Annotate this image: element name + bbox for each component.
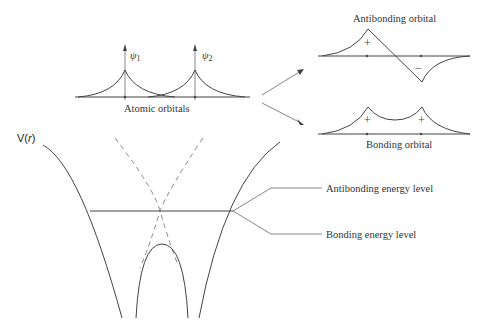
arrow-head-down-icon <box>297 119 304 125</box>
nucleus-1-dot <box>124 96 126 98</box>
right-outer-well <box>199 142 280 318</box>
left-outer-well <box>43 145 122 318</box>
bonding-plus-right: + <box>418 113 425 127</box>
arrow-to-bonding <box>262 103 301 123</box>
bonding-orbital-panel: + + Bonding orbital <box>318 107 470 150</box>
molecular-orbital-diagram: ψ1 ψ2 Atomic orbitals Antibonding orbita… <box>0 0 487 335</box>
v-of-r-label: V(r) <box>17 132 35 144</box>
psi1-curve <box>78 70 175 97</box>
bonding-energy-level-label: Bonding energy level <box>326 229 416 240</box>
antibonding-energy-level-label: Antibonding energy level <box>326 183 433 194</box>
bonding-curve <box>322 107 470 134</box>
bonding-plus-left: + <box>364 113 371 127</box>
bonding-leader <box>233 211 322 234</box>
arrow-head-up-icon <box>297 69 304 75</box>
antibonding-nucleus-2-dot <box>420 55 422 57</box>
antibonding-minus-sign: − <box>415 61 422 75</box>
antibonding-plus-sign: + <box>364 36 371 50</box>
bonding-nucleus-1-dot <box>366 133 368 135</box>
psi2-curve <box>148 70 245 97</box>
psi1-label: ψ1 <box>130 50 141 63</box>
potential-panel: V(r) Antibonding energy level Bonding en… <box>17 132 433 318</box>
central-barrier <box>136 244 188 318</box>
atomic-orbitals-caption: Atomic orbitals <box>124 103 190 114</box>
bonding-nucleus-2-dot <box>420 133 422 135</box>
psi2-label: ψ2 <box>202 50 213 63</box>
atomic-orbitals-panel: ψ1 ψ2 Atomic orbitals <box>75 44 250 114</box>
antibonding-nucleus-1-dot <box>366 55 368 57</box>
antibonding-orbital-panel: Antibonding orbital + − <box>318 13 470 82</box>
combination-arrows <box>262 69 304 125</box>
psi1-arrow-icon <box>123 44 127 51</box>
antibonding-leader <box>233 188 322 211</box>
antibonding-orbital-title: Antibonding orbital <box>353 13 436 24</box>
arrow-to-antibonding <box>262 71 301 95</box>
bonding-orbital-caption: Bonding orbital <box>366 139 432 150</box>
nucleus-2-dot <box>194 96 196 98</box>
psi2-arrow-icon <box>193 44 197 51</box>
